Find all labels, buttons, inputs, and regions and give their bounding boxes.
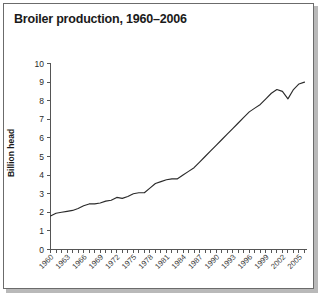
x-tick-label: 1978 [136, 253, 154, 271]
x-tick-label: 1972 [103, 253, 121, 271]
y-tick-label: 5 [39, 152, 44, 162]
y-tick-label: 4 [39, 170, 44, 180]
x-tick-label: 1969 [87, 253, 105, 271]
y-tick-label: 1 [39, 226, 44, 236]
x-tick-label: 1963 [54, 253, 72, 271]
x-tick-label: 1984 [170, 253, 188, 271]
y-tick-label: 10 [35, 59, 45, 69]
x-tick-label: 1960 [37, 253, 55, 271]
x-tick-label: 1966 [70, 253, 88, 271]
y-tick-label: 9 [39, 77, 44, 87]
y-tick-label: 7 [39, 114, 44, 124]
x-axis-ticks: 1960196319661969197219751978198119841987… [37, 250, 304, 271]
y-tick-label: 6 [39, 133, 44, 143]
y-tick-label: 0 [39, 245, 44, 255]
x-tick-label: 2005 [286, 253, 304, 271]
x-tick-label: 1981 [153, 253, 171, 271]
data-series-line [51, 82, 305, 216]
y-axis-ticks: 012345678910 [35, 59, 51, 255]
chart-figure: Broiler production, 1960–2006 Billion he… [0, 0, 321, 294]
x-tick-label: 1996 [236, 253, 254, 271]
x-tick-label: 2002 [269, 253, 287, 271]
x-tick-label: 1975 [120, 253, 138, 271]
x-tick-label: 1987 [186, 253, 204, 271]
x-tick-label: 1993 [219, 253, 237, 271]
y-tick-label: 3 [39, 189, 44, 199]
x-tick-label: 1999 [252, 253, 270, 271]
y-tick-label: 8 [39, 96, 44, 106]
x-tick-label: 1990 [203, 253, 221, 271]
y-tick-label: 2 [39, 207, 44, 217]
plot-area: 012345678910 196019631966196919721975197… [0, 0, 321, 294]
